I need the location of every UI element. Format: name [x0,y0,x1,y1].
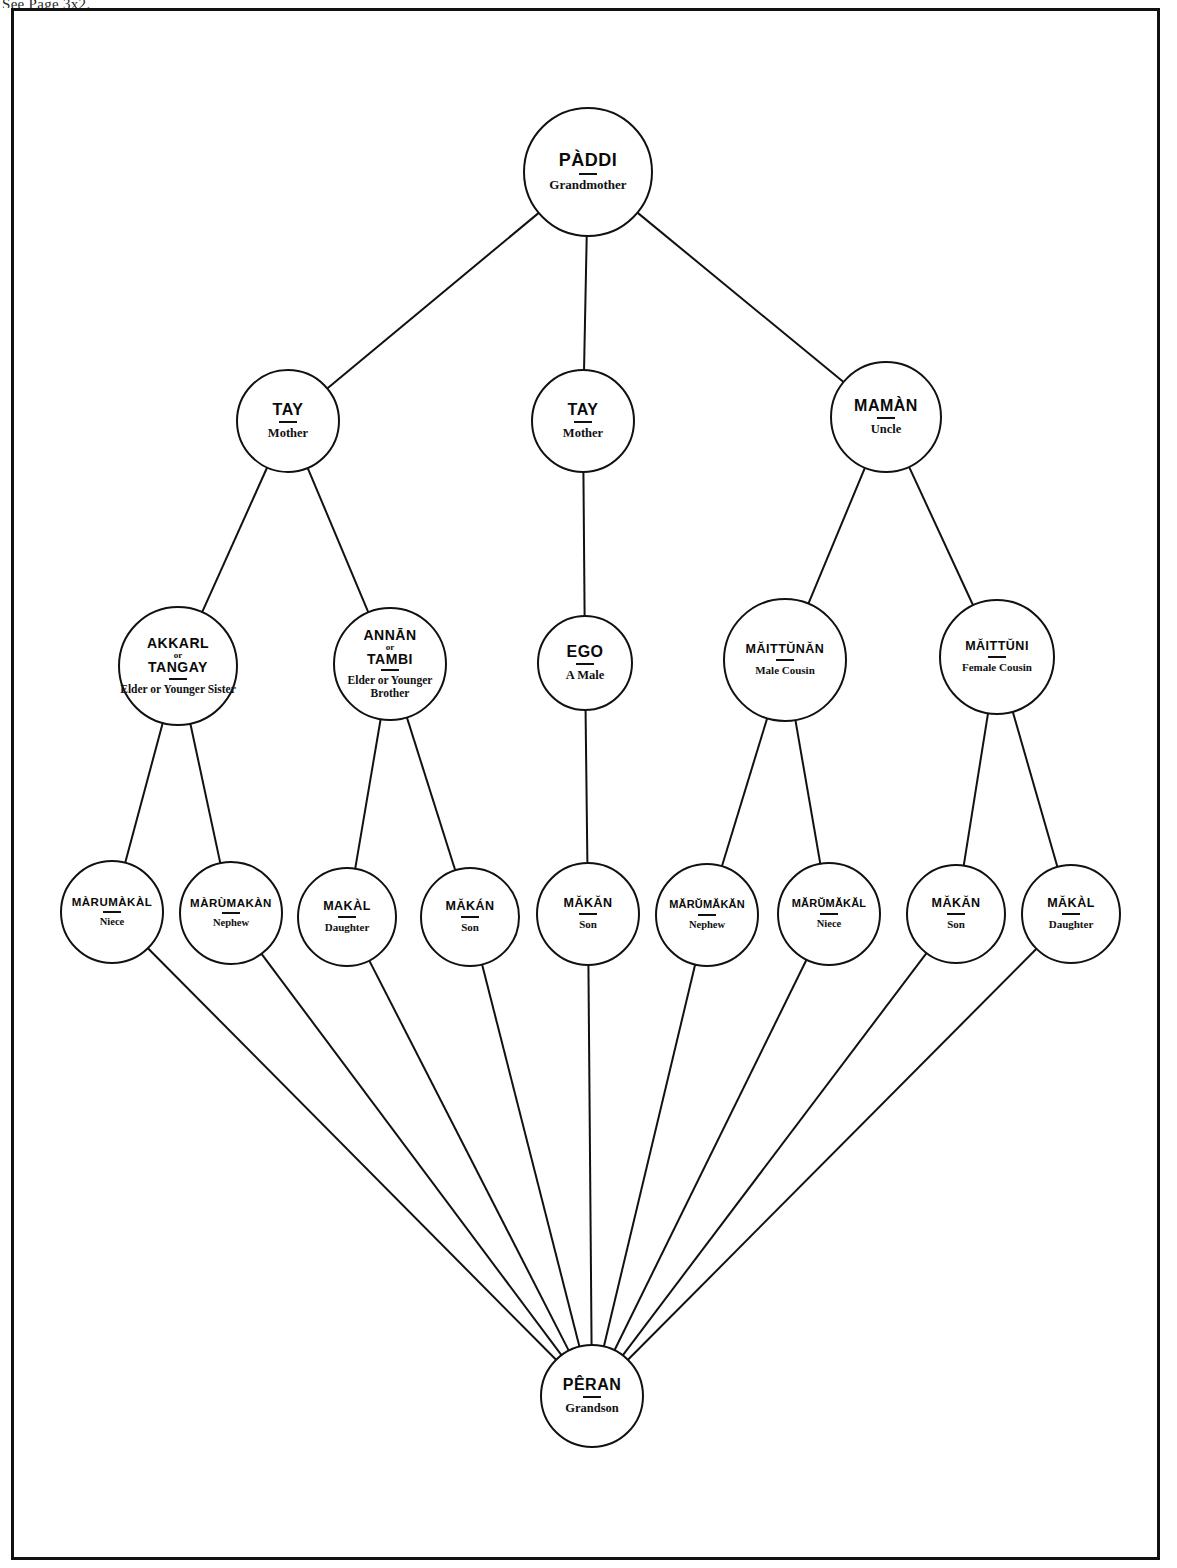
node-term: EGO [566,644,603,661]
kinship-node-akkarl-tangay[interactable]: AKKARLorTANGAYElder or Younger Sister [118,606,238,726]
node-term: ANNĀN [363,628,416,643]
kinship-diagram-page: See Page 3x2. PÀDDIGrandmotherTAYMotherT… [0,0,1177,1568]
kinship-node-maittuni[interactable]: MĂITTŬNIFemale Cousin [939,599,1055,715]
node-term: AKKARL [147,636,209,651]
node-term: PÀDDI [559,151,618,170]
node-gloss: Son [579,918,597,930]
kinship-node-tay-left[interactable]: TAYMother [236,369,340,473]
node-gloss: Grandson [565,1401,619,1415]
node-divider-rule [338,916,356,918]
node-gloss: Niece [817,918,841,930]
node-term: TAY [273,402,304,419]
node-divider-rule [576,663,594,665]
node-divider-rule [103,911,121,913]
node-gloss: Daughter [1049,918,1094,930]
node-term: MÀRÙMAKÀN [190,897,272,909]
diagram-border-frame [11,8,1160,1560]
node-divider-rule [222,912,240,914]
node-divider-rule [1062,913,1080,915]
node-gloss: Son [947,918,965,930]
kinship-node-ego[interactable]: EGOA Male [537,615,633,711]
kinship-node-maman[interactable]: MAMÀNUncle [830,361,942,473]
node-term: MAMÀN [854,398,918,415]
node-divider-rule [820,913,838,915]
node-gloss: Female Cousin [962,661,1032,673]
node-gloss: Elder or Younger Sister [120,683,236,696]
page-header-note: See Page 3x2. [2,0,90,8]
node-gloss: A Male [566,668,605,682]
node-divider-rule [583,1396,601,1398]
kinship-node-marumakan-2[interactable]: MĂRŬMĂKĂNNephew [655,863,759,967]
node-divider-rule [579,913,597,915]
node-gloss: Elder or Younger Brother [335,674,445,700]
node-term-alternate: TANGAY [148,660,208,675]
node-term: MĂITTŬNĂN [746,643,825,656]
node-divider-rule [461,916,479,918]
kinship-node-makan-2[interactable]: MĂKĂNSon [536,862,640,966]
node-divider-rule [877,417,895,419]
node-gloss: Grandmother [549,178,626,193]
node-divider-rule [381,669,399,671]
node-term: TAY [568,402,599,419]
node-term: MĂRŬMĂKĂL [792,898,867,910]
node-term: MAKÀL [323,900,371,913]
node-divider-rule [279,421,297,423]
kinship-node-tay-center[interactable]: TAYMother [531,369,635,473]
node-term: MĂKÀL [1047,897,1095,910]
kinship-node-makal-1[interactable]: MAKÀLDaughter [297,867,397,967]
kinship-node-makan-1[interactable]: MĂKÁNSon [420,867,520,967]
node-gloss: Uncle [871,422,902,436]
node-gloss: Male Cousin [755,664,815,676]
node-term: MÀRUMÀKÀL [72,896,153,908]
node-term: MĂKÁN [445,900,494,913]
kinship-node-marumakal-2[interactable]: MĂRŬMĂKĂLNiece [777,862,881,966]
node-divider-rule [579,173,597,175]
kinship-node-marumakan-1[interactable]: MÀRÙMAKÀNNephew [179,861,283,965]
node-term: MĂKĂN [563,897,612,910]
node-gloss: Son [461,921,479,933]
node-gloss: Daughter [325,921,370,933]
kinship-node-makal-2[interactable]: MĂKÀLDaughter [1021,864,1121,964]
kinship-node-maittunan[interactable]: MĂITTŬNĂNMale Cousin [723,598,847,722]
node-divider-rule [698,914,716,916]
node-term-alternate: TAMBI [367,652,413,667]
kinship-node-marumakal-1[interactable]: MÀRUMÀKÀLNiece [60,860,164,964]
node-gloss: Nephew [689,919,725,931]
node-gloss: Mother [563,426,603,440]
node-term: MĂITTŬNI [965,640,1029,653]
node-divider-rule [574,421,592,423]
kinship-node-annan-tambi[interactable]: ANNĀNorTAMBIElder or Younger Brother [333,607,447,721]
kinship-node-paddi[interactable]: PÀDDIGrandmother [523,107,653,237]
node-term: PÊRAN [563,1377,622,1394]
node-gloss: Mother [268,426,308,440]
node-divider-rule [776,659,794,661]
node-term: MĂRŬMĂKĂN [669,899,745,911]
node-divider-rule [169,678,187,680]
node-divider-rule [988,656,1006,658]
kinship-node-peran[interactable]: PÊRANGrandson [540,1344,644,1448]
node-divider-rule [947,913,965,915]
kinship-node-makan-3[interactable]: MĂKĂNSon [906,864,1006,964]
node-gloss: Nephew [213,917,249,929]
node-gloss: Niece [100,916,124,928]
node-term: MĂKĂN [931,897,980,910]
